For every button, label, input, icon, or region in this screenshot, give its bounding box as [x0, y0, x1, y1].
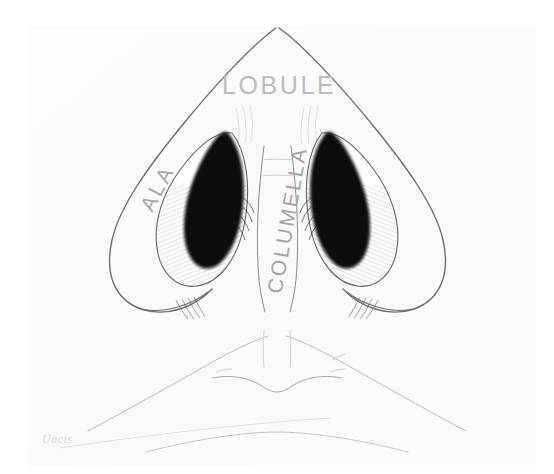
- figure-root: LOBULE ALA COLUMELLA Uacis: [0, 0, 554, 474]
- paper-tone: [28, 26, 536, 466]
- artist-signature: Uacis: [42, 432, 73, 447]
- nose-base-illustration: [0, 0, 554, 474]
